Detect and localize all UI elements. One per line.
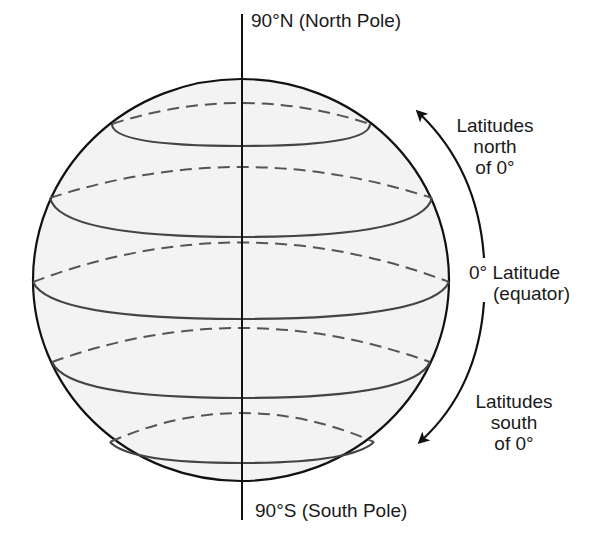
- north-annotation: Latitudes north of 0°: [438, 115, 552, 178]
- south-annotation-line2: south: [457, 412, 571, 433]
- south-annotation-line1: Latitudes: [457, 391, 571, 412]
- north-annotation-line1: Latitudes: [438, 115, 552, 136]
- equator-label-line1: 0° Latitude: [469, 262, 570, 283]
- equator-label: 0° Latitude (equator): [469, 262, 570, 304]
- north-pole-label: 90°N (North Pole): [251, 10, 401, 31]
- equator-label-line2: (equator): [469, 283, 570, 304]
- south-annotation-line3: of 0°: [457, 433, 571, 454]
- north-annotation-line3: of 0°: [438, 157, 552, 178]
- south-annotation: Latitudes south of 0°: [457, 391, 571, 454]
- south-pole-label: 90°S (South Pole): [255, 500, 407, 521]
- north-annotation-line2: north: [438, 136, 552, 157]
